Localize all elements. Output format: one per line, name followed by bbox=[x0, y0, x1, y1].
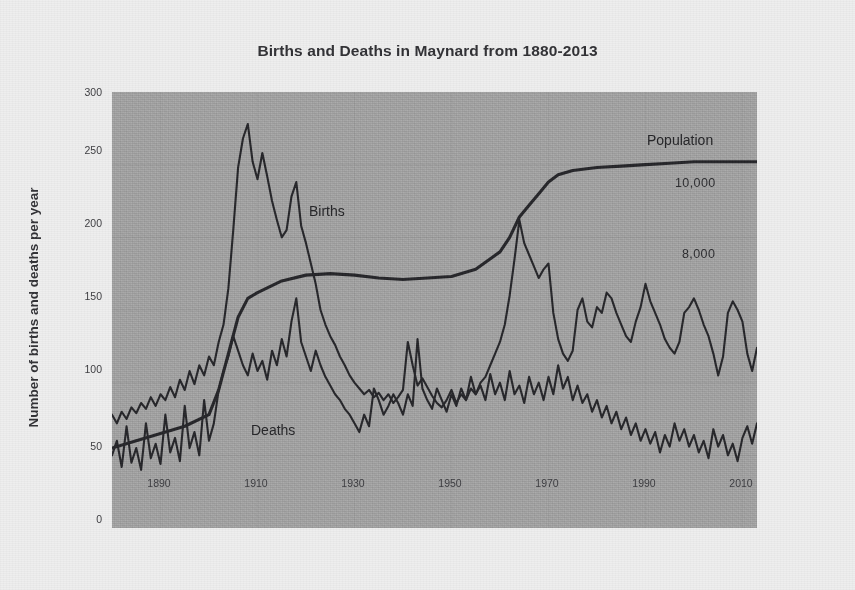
population-line bbox=[112, 162, 757, 448]
x-tick-1970: 1970 bbox=[517, 477, 577, 489]
gridlines bbox=[112, 92, 757, 528]
y-tick-100: 100 bbox=[62, 363, 102, 375]
x-tick-2010: 2010 bbox=[711, 477, 771, 489]
y-tick-200: 200 bbox=[62, 217, 102, 229]
series-label-births: Births bbox=[309, 203, 345, 219]
chart-page: Births and Deaths in Maynard from 1880-2… bbox=[0, 0, 855, 590]
y-tick-150: 150 bbox=[62, 290, 102, 302]
x-tick-1950: 1950 bbox=[420, 477, 480, 489]
x-tick-1910: 1910 bbox=[226, 477, 286, 489]
y-tick-300: 300 bbox=[62, 86, 102, 98]
y-axis-label: Number of births and deaths per year bbox=[26, 138, 41, 478]
series-label-deaths: Deaths bbox=[251, 422, 295, 438]
chart-title: Births and Deaths in Maynard from 1880-2… bbox=[0, 42, 855, 60]
y-tick-250: 250 bbox=[62, 144, 102, 156]
chart-svg bbox=[112, 92, 757, 528]
x-tick-1930: 1930 bbox=[323, 477, 383, 489]
y-tick-0: 0 bbox=[62, 513, 102, 525]
births-line bbox=[112, 124, 757, 423]
y-tick-50: 50 bbox=[62, 440, 102, 452]
x-tick-1990: 1990 bbox=[614, 477, 674, 489]
series-label-population: Population bbox=[647, 132, 713, 148]
x-tick-1890: 1890 bbox=[129, 477, 189, 489]
plot-area: Births Deaths Population 10,000 8,000 18… bbox=[112, 92, 757, 528]
population-tick-10000: 10,000 bbox=[675, 176, 716, 190]
population-tick-8000: 8,000 bbox=[682, 247, 715, 261]
